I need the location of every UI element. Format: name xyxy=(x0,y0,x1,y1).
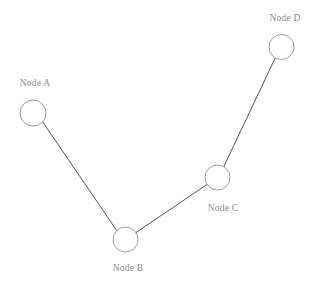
node-d-circle[interactable] xyxy=(269,35,294,60)
node-link-diagram: Node A Node B Node C Node D xyxy=(0,0,318,283)
node-d-label: Node D xyxy=(269,13,300,23)
edge-a-b[interactable] xyxy=(43,122,117,231)
graph-svg-canvas: Node A Node B Node C Node D xyxy=(0,0,318,283)
node-layer xyxy=(20,35,294,253)
label-layer: Node A Node B Node C Node D xyxy=(20,13,301,273)
edge-layer xyxy=(43,58,276,233)
edge-b-c[interactable] xyxy=(136,185,207,233)
node-a-label: Node A xyxy=(20,78,51,88)
node-a-circle[interactable] xyxy=(20,100,46,126)
node-c-circle[interactable] xyxy=(205,165,230,190)
edge-c-d[interactable] xyxy=(224,58,275,167)
node-b-label: Node B xyxy=(113,263,144,273)
node-b-circle[interactable] xyxy=(113,227,138,252)
node-c-label: Node C xyxy=(208,203,239,213)
